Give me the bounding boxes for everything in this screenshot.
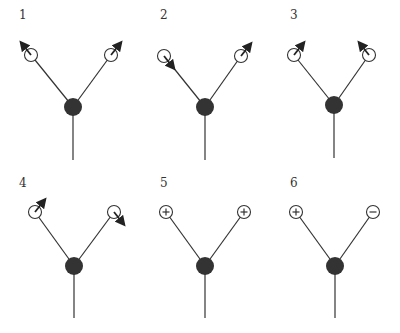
panel-label: 6 — [290, 176, 298, 190]
central-atom — [196, 257, 214, 275]
mode-panel-6: 6 — [290, 176, 380, 318]
panel-label: 1 — [19, 8, 27, 22]
panel-label: 3 — [290, 8, 298, 22]
left-bond — [296, 212, 335, 266]
panel-label: 2 — [160, 8, 168, 22]
vibration-modes-diagram: 123456 — [0, 0, 400, 333]
central-atom — [326, 257, 344, 275]
mode-panel-2: 2 — [158, 8, 251, 160]
left-bond — [35, 212, 74, 266]
right-bond — [73, 55, 111, 107]
mode-panel-5: 5 — [160, 176, 251, 318]
left-bond — [294, 55, 334, 105]
central-atom — [325, 96, 343, 114]
mode-panel-3: 3 — [288, 8, 376, 158]
right-bond — [335, 212, 373, 266]
panel-label: 5 — [160, 176, 168, 190]
right-bond — [74, 212, 114, 266]
left-bond — [166, 212, 205, 266]
central-atom — [65, 257, 83, 275]
right-bond — [205, 212, 244, 266]
right-bond — [205, 56, 241, 107]
left-bond — [31, 55, 73, 107]
central-atom — [196, 98, 214, 116]
mode-panel-1: 1 — [19, 8, 121, 160]
right-bond — [334, 55, 369, 105]
panel-label: 4 — [19, 176, 27, 190]
central-atom — [64, 98, 82, 116]
mode-panel-4: 4 — [19, 176, 124, 318]
